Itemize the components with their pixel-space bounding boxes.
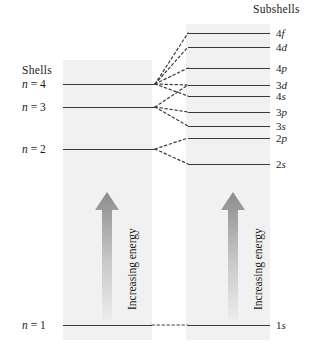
subshell-label-3s: 3s: [276, 120, 286, 132]
subshell-level-line-2p: [188, 138, 270, 139]
subshell-label-4s-orbital: s: [282, 90, 286, 102]
subshell-label-4d: 4d: [276, 41, 287, 53]
subshell-label-2p-orbital: p: [282, 132, 288, 144]
shell-label-n3-symbol: n: [22, 101, 28, 113]
subshell-label-3p-orbital: p: [282, 106, 288, 118]
subshell-level-line-3s: [188, 126, 270, 127]
shell-label-n1-symbol: n: [22, 319, 28, 331]
subshell-level-line-3p: [188, 112, 270, 113]
shell-level-line-n2: [63, 149, 155, 150]
shell-label-n4: n = 4: [22, 78, 46, 90]
shell-label-n2-symbol: n: [22, 143, 28, 155]
subshell-level-line-4f: [188, 33, 270, 34]
increasing-energy-arrow-right: [220, 190, 246, 320]
subshell-label-2p: 2p: [276, 132, 287, 144]
subshell-label-4f-orbital: f: [282, 27, 285, 39]
subshell-label-1s-orbital: s: [282, 319, 286, 331]
shell-label-n4-equals: =: [31, 78, 38, 90]
subshell-label-3s-orbital: s: [282, 120, 286, 132]
up-arrow-icon: [94, 190, 120, 320]
subshell-label-4f: 4f: [276, 27, 285, 39]
subshell-label-4s: 4s: [276, 90, 286, 102]
subshell-level-line-4d: [188, 47, 270, 48]
shell-label-n2-value: 2: [40, 143, 46, 155]
increasing-energy-arrow-left: [94, 190, 120, 320]
shell-label-n1: n = 1: [22, 319, 46, 331]
shell-label-n4-value: 4: [40, 78, 46, 90]
subshell-level-line-4s: [188, 96, 270, 97]
shell-label-n3-equals: =: [31, 101, 38, 113]
subshell-label-2s-orbital: s: [282, 158, 286, 170]
subshell-level-line-1s: [188, 325, 270, 326]
subshell-label-1s: 1s: [276, 319, 286, 331]
shell-level-line-n4: [63, 84, 155, 85]
subshells-heading: Subshells: [253, 3, 300, 15]
energy-level-diagram: Shells Subshells n = 4 n: [0, 0, 322, 349]
shells-heading: Shells: [22, 64, 52, 76]
shell-label-n1-value: 1: [40, 319, 46, 331]
shell-label-n4-symbol: n: [22, 78, 28, 90]
increasing-energy-label-left: Increasing energy: [126, 228, 138, 310]
shell-level-line-n3: [63, 107, 155, 108]
subshell-level-line-4p: [188, 68, 270, 69]
shell-label-n3-value: 3: [40, 101, 46, 113]
subshell-level-line-2s: [188, 164, 270, 165]
shell-label-n2-equals: =: [31, 143, 38, 155]
increasing-energy-label-right: Increasing energy: [252, 228, 264, 310]
subshell-label-2s: 2s: [276, 158, 286, 170]
subshell-label-4p-orbital: p: [282, 62, 288, 74]
shell-label-n1-equals: =: [31, 319, 38, 331]
subshell-level-line-3d: [188, 85, 270, 86]
subshell-label-3p: 3p: [276, 106, 287, 118]
shell-label-n3: n = 3: [22, 101, 46, 113]
shell-label-n2: n = 2: [22, 143, 46, 155]
up-arrow-icon: [220, 190, 246, 320]
dashed-connector-lines: [0, 0, 322, 349]
subshell-label-4d-orbital: d: [282, 41, 288, 53]
subshell-label-4p: 4p: [276, 62, 287, 74]
shell-level-line-n1: [63, 325, 152, 326]
